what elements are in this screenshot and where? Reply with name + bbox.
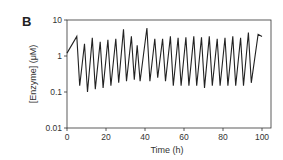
x-tick-label: 60 <box>179 132 189 142</box>
x-tick-label: 100 <box>255 132 269 142</box>
x-tick-label: 20 <box>101 132 111 142</box>
enzyme-line <box>67 28 262 92</box>
y-tick-label: 0.1 <box>50 87 62 97</box>
y-tick-label: 0.01 <box>45 123 62 133</box>
x-tick-label: 80 <box>218 132 228 142</box>
chart: 0.010.1110 020406080100 Time (h) [Enzyme… <box>0 0 283 160</box>
plot-frame <box>67 20 271 128</box>
y-tick-label: 10 <box>53 15 63 25</box>
x-tick-label: 0 <box>65 132 70 142</box>
x-axis-label: Time (h) <box>150 145 183 155</box>
x-axis: 020406080100 <box>65 128 270 142</box>
x-tick-label: 40 <box>140 132 150 142</box>
y-tick-label: 1 <box>57 51 62 61</box>
y-axis: 0.010.1110 <box>45 15 67 133</box>
y-axis-label: [Enzyme] (μM) <box>28 45 38 104</box>
